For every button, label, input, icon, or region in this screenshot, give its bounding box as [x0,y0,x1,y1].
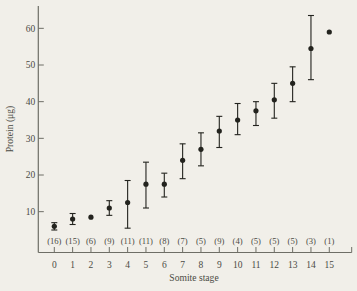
data-point [162,182,167,187]
y-tick-label: 40 [26,97,36,107]
x-tick-label: 3 [107,260,112,270]
y-tick-label: 60 [26,24,36,34]
figure-canvas: 1020304050600(16)1(15)2(6)3(9)4(11)5(11)… [0,0,357,291]
sample-size-label: (5) [196,236,206,246]
sample-size-label: (1) [324,236,334,246]
x-tick-label: 10 [233,260,243,270]
data-point [235,117,240,122]
sample-size-label: (15) [65,236,79,246]
sample-size-label: (5) [288,236,298,246]
x-tick-label: 15 [325,260,335,270]
data-point [107,205,112,210]
x-tick-label: 7 [180,260,185,270]
x-axis-title: Somite stage [169,272,218,283]
x-tick-label: 9 [217,260,222,270]
axes: 1020304050600(16)1(15)2(6)3(9)4(11)5(11)… [26,6,352,270]
sample-size-label: (3) [306,236,316,246]
sample-size-label: (8) [159,236,169,246]
data-points [51,16,332,231]
x-tick-label: 6 [162,260,167,270]
y-tick-label: 30 [26,134,36,144]
sample-size-label: (5) [251,236,261,246]
data-point [308,46,313,51]
data-point [198,147,203,152]
data-point [290,81,295,86]
x-tick-label: 11 [251,260,260,270]
data-point [52,224,57,229]
y-tick-label: 20 [26,170,36,180]
sample-size-label: (4) [233,236,243,246]
y-tick-label: 10 [26,207,36,217]
sample-size-label: (5) [269,236,279,246]
sample-size-label: (6) [86,236,96,246]
y-tick-label: 50 [26,60,36,70]
x-tick-label: 1 [70,260,75,270]
data-point [217,128,222,133]
sample-size-label: (9) [214,236,224,246]
data-point [143,182,148,187]
data-point [180,158,185,163]
data-point [327,29,332,34]
x-tick-label: 8 [199,260,204,270]
x-tick-label: 13 [288,260,298,270]
x-tick-label: 2 [89,260,94,270]
protein-vs-somite-stage-chart: 1020304050600(16)1(15)2(6)3(9)4(11)5(11)… [0,0,357,291]
y-axis-title: Protein (μg) [4,106,16,152]
x-tick-label: 4 [125,260,130,270]
data-point [88,215,93,220]
data-point [125,200,130,205]
data-point [272,97,277,102]
x-tick-label: 5 [144,260,149,270]
sample-size-label: (16) [47,236,61,246]
x-tick-label: 0 [52,260,57,270]
sample-size-label: (11) [121,236,135,246]
data-point [253,108,258,113]
data-point [70,216,75,221]
x-tick-label: 14 [306,260,316,270]
sample-size-label: (9) [104,236,114,246]
x-tick-label: 12 [270,260,280,270]
sample-size-label: (7) [178,236,188,246]
sample-size-label: (11) [139,236,153,246]
